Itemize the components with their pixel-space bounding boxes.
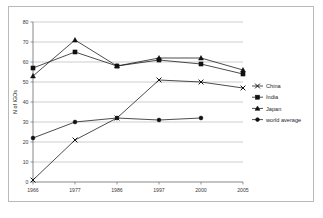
legend-marker-circle-icon — [256, 118, 260, 122]
data-point — [157, 118, 161, 122]
data-point — [73, 120, 77, 124]
x-tick-label: 1986 — [111, 187, 123, 193]
data-point — [73, 38, 78, 42]
data-point — [199, 116, 203, 120]
x-tick-label: 1997 — [153, 187, 165, 193]
legend-item-India: India — [252, 94, 279, 100]
series-line — [33, 40, 243, 76]
legend-label: world average — [265, 117, 301, 123]
series-line — [33, 52, 243, 74]
legend-item-Japan: Japan — [252, 106, 281, 112]
y-tick-label: 80 — [23, 19, 29, 25]
chart-legend: ChinaIndiaJapanworld average — [252, 83, 301, 123]
y-tick-label: 70 — [23, 39, 29, 45]
y-tick-label: 50 — [23, 79, 29, 85]
x-axis-tickmarks — [33, 182, 243, 185]
data-point — [31, 66, 35, 70]
series-layer — [31, 38, 246, 183]
legend-label: China — [266, 83, 282, 89]
data-point — [73, 138, 78, 143]
y-tick-label: 60 — [23, 59, 29, 65]
series-China — [31, 78, 246, 183]
y-axis-tick-labels: 01020304050607080 — [23, 19, 29, 185]
x-tick-label: 1977 — [69, 187, 81, 193]
legend-label: Japan — [266, 106, 281, 112]
x-tick-label: 1966 — [27, 187, 39, 193]
y-tick-label: 0 — [26, 179, 29, 185]
x-tick-label: 2000 — [195, 187, 207, 193]
data-point — [73, 50, 77, 54]
y-tick-label: 20 — [23, 139, 29, 145]
x-tick-label: 2005 — [237, 187, 249, 193]
series-line — [33, 118, 201, 138]
legend-item-China: China — [252, 83, 282, 89]
data-point — [115, 116, 119, 120]
series-India — [31, 50, 245, 76]
data-point — [199, 62, 203, 66]
data-point — [31, 136, 35, 140]
gridlines — [33, 22, 243, 162]
data-point — [241, 72, 245, 76]
y-axis-tickmarks — [31, 22, 34, 182]
series-world-average — [31, 116, 203, 140]
x-axis-tick-labels: 196619771986199720002005 — [27, 187, 249, 193]
legend-label: India — [266, 94, 279, 100]
y-tick-label: 40 — [23, 99, 29, 105]
y-tick-label: 30 — [23, 119, 29, 125]
y-tick-label: 10 — [23, 159, 29, 165]
legend-marker-square-icon — [256, 95, 260, 99]
y-axis-title: N of IGOs — [12, 90, 18, 114]
legend-item-world-average: world average — [252, 117, 301, 123]
series-line — [33, 80, 243, 180]
series-Japan — [31, 38, 246, 78]
line-chart: 01020304050607080 1966197719861997200020… — [0, 0, 323, 218]
chart-figure: 01020304050607080 1966197719861997200020… — [0, 0, 323, 218]
